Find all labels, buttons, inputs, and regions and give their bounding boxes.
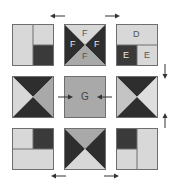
label-f-right: F	[94, 39, 100, 49]
label-e-dark: E	[123, 50, 129, 60]
label-d: D	[133, 29, 140, 39]
label-f-bottom: F	[82, 51, 88, 61]
arrow-into-center-left-icon	[97, 94, 113, 100]
hourglass-tile-graphic	[13, 77, 53, 117]
tile-top-right: D E E	[116, 24, 158, 66]
split-tile-graphic	[117, 129, 157, 169]
tile-middle-right	[116, 76, 158, 118]
arrow-down-icon	[162, 63, 168, 79]
label-f-left: F	[70, 39, 76, 49]
arrow-left-icon	[50, 13, 66, 19]
hourglass-tile-graphic	[65, 129, 105, 169]
arrow-left-icon	[51, 173, 67, 179]
label-e-light: E	[144, 50, 150, 60]
label-g: G	[81, 91, 89, 102]
tile-top-left	[12, 24, 54, 66]
arrow-right-icon	[104, 13, 120, 19]
tile-middle-left	[12, 76, 54, 118]
tile-bottom-center	[64, 128, 106, 170]
arrow-into-center-right-icon	[57, 94, 73, 100]
split-tile-graphic	[13, 25, 53, 65]
tile-top-center: F F F F	[64, 24, 106, 66]
split-tile-graphic	[13, 129, 53, 169]
tile-bottom-left	[12, 128, 54, 170]
hourglass-tile-graphic	[117, 77, 157, 117]
tile-bottom-right	[116, 128, 158, 170]
arrow-up-icon	[162, 113, 168, 129]
label-f-top: F	[82, 28, 88, 38]
arrow-right-icon	[103, 173, 119, 179]
